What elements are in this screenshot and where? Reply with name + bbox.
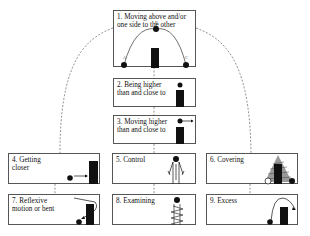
ball-above-bar-icon (114, 79, 197, 108)
cone-covering-bar-icon (207, 154, 299, 185)
overshoot-arc-bar-icon (207, 195, 299, 226)
node-2-being-higher: 2. Being higher than and close to (113, 78, 196, 107)
spiral-around-bar-icon (113, 195, 197, 226)
node-4-getting-closer: 4. Getting closer (8, 153, 100, 184)
person-figure-icon (113, 154, 197, 185)
svg-text:A: A (123, 55, 126, 60)
node-1-moving-above: 1. Moving above and/or one side to the o… (113, 10, 196, 67)
ball-approaching-bar-icon (9, 154, 101, 185)
node-6-covering: 6. Covering (206, 153, 298, 184)
node-7-reflexive-motion: 7. Reflexive motion or bent (8, 194, 100, 225)
node-9-excess: 9. Excess (206, 194, 298, 225)
ball-moving-over-bar-icon (114, 116, 197, 145)
node-3-moving-higher: 3. Moving higher than and close to (113, 115, 196, 144)
bent-motion-bar-icon (9, 195, 101, 226)
svg-text:B: B (155, 20, 158, 25)
node-5-control: 5. Control (112, 153, 196, 184)
semantic-network-diagram: 1. Moving above and/or one side to the o… (0, 0, 310, 236)
svg-text:C: C (185, 55, 188, 60)
node-8-examining: 8. Examining (112, 194, 196, 225)
arc-over-bar-icon: A B C (114, 11, 197, 68)
